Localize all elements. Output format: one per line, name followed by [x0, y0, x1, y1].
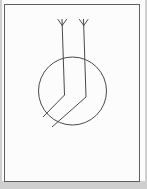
line-drawing [0, 0, 147, 189]
left-arrow-line [43, 19, 65, 117]
left-arrow-fletch-right [62, 20, 66, 26]
circle-outline [39, 57, 107, 125]
right-arrow-fletch-right [84, 20, 88, 26]
right-arrow-line [52, 19, 86, 127]
screenshot-root [0, 0, 147, 189]
